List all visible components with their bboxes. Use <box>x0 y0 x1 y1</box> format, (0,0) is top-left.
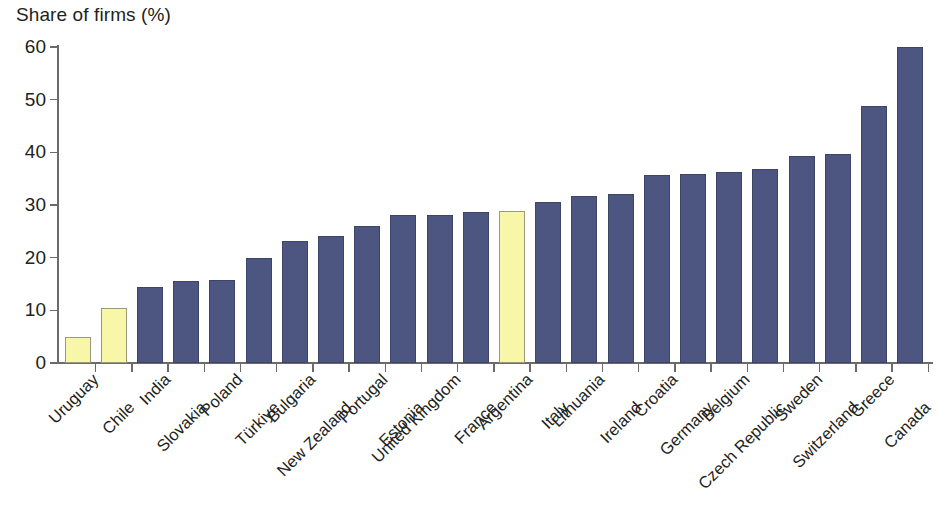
bar-t-rkiye <box>246 258 272 363</box>
x-axis-label-sweden: Sweden <box>770 370 826 426</box>
x-axis-label-poland: Poland <box>197 370 247 420</box>
x-axis-category-labels: UruguayChileIndiaSlovakiaPolandTürkiyeBu… <box>0 368 941 508</box>
x-axis-label-greece: Greece <box>847 370 899 422</box>
bar-estonia <box>390 215 416 363</box>
x-axis-label-croatia: Croatia <box>630 370 681 421</box>
bar-france <box>463 212 489 363</box>
bar-new-zealand <box>318 236 344 363</box>
x-axis-label-uruguay: Uruguay <box>44 370 102 428</box>
plot-area: 0102030405060 <box>0 0 941 380</box>
x-axis-label-canada: Canada <box>880 398 934 452</box>
bar-belgium <box>716 172 742 363</box>
bar-portugal <box>354 226 380 363</box>
bar-canada <box>897 47 923 363</box>
x-axis-label-belgium: Belgium <box>698 370 754 426</box>
bar-slovakia <box>173 281 199 363</box>
bar-switzerland <box>825 154 851 363</box>
bar-uruguay <box>65 337 91 363</box>
bar-italy <box>535 202 561 363</box>
bar-united-kingdom <box>427 215 453 363</box>
bar-chart: Share of firms (%) 0102030405060 Uruguay… <box>0 0 941 508</box>
bar-poland <box>209 280 235 363</box>
bar-czech-republic <box>752 169 778 363</box>
bar-india <box>137 287 163 363</box>
bar-sweden <box>789 156 815 363</box>
bar-lithuania <box>571 196 597 363</box>
bar-ireland <box>608 194 634 363</box>
bar-greece <box>861 106 887 363</box>
x-axis-label-india: India <box>136 370 175 409</box>
x-axis-label-bulgaria: Bulgaria <box>263 370 319 426</box>
x-axis-label-chile: Chile <box>98 398 138 438</box>
bar-germany <box>680 174 706 363</box>
bars-group <box>0 0 941 363</box>
bar-chile <box>101 308 127 363</box>
bar-bulgaria <box>282 241 308 363</box>
bar-croatia <box>644 175 670 363</box>
bar-argentina <box>499 211 525 363</box>
